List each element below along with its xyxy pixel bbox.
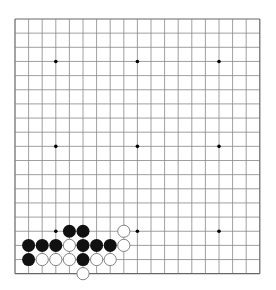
star-point	[217, 229, 221, 233]
white-stone	[104, 253, 116, 265]
go-board[interactable]	[0, 0, 276, 290]
white-stone	[118, 225, 130, 237]
star-point	[217, 60, 221, 64]
star-point	[54, 60, 58, 64]
star-point	[136, 145, 140, 149]
star-point	[54, 145, 58, 149]
star-point	[54, 229, 58, 233]
black-stone	[77, 239, 90, 252]
white-stone	[63, 253, 75, 265]
black-stone	[77, 253, 90, 266]
black-stone	[49, 239, 62, 252]
stones	[22, 225, 130, 280]
black-stone	[90, 239, 103, 252]
black-stone	[36, 239, 49, 252]
white-stone	[50, 253, 62, 265]
white-stone	[91, 253, 103, 265]
black-stone	[22, 253, 35, 266]
black-stone	[104, 239, 117, 252]
white-stone	[63, 239, 75, 251]
black-stone	[22, 239, 35, 252]
black-stone	[77, 225, 90, 238]
white-stone	[118, 239, 130, 251]
white-stone	[77, 268, 89, 280]
white-stone	[36, 253, 48, 265]
star-point	[136, 229, 140, 233]
star-point	[217, 145, 221, 149]
black-stone	[63, 225, 76, 238]
star-point	[136, 60, 140, 64]
